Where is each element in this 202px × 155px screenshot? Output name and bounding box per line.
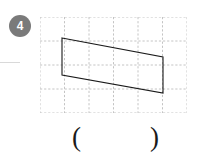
- question-number-badge: 4: [9, 15, 31, 37]
- scan-artifact-mark: [0, 62, 20, 63]
- open-paren: (: [72, 122, 81, 152]
- figure-grid-area: [40, 17, 187, 113]
- worksheet-page: 4 ( ): [0, 0, 202, 155]
- answer-parentheses: ( ): [40, 122, 187, 152]
- close-paren: ): [150, 122, 159, 152]
- figure-svg: [40, 17, 187, 113]
- parallelogram-shape: [62, 38, 163, 93]
